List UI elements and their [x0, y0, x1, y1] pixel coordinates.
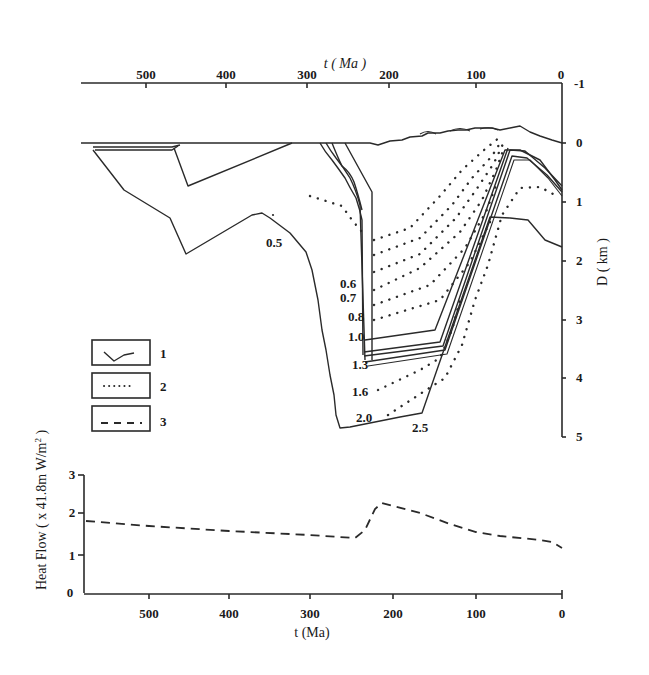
legend-item-3: 3	[92, 406, 167, 431]
x-tick-100: 100	[466, 67, 486, 82]
y-tick-3: 3	[576, 312, 583, 327]
heat-flow-x-tick-labels: 500 400 300 200 100 0	[139, 606, 565, 621]
horizon-trough-2	[364, 148, 508, 352]
figure: t ( Ma ) 500 400 300 200 100 0	[0, 0, 649, 675]
x-tick-300: 300	[297, 67, 317, 82]
legend-item-2: 2	[92, 373, 167, 398]
ro-label-0-8: 0.8	[348, 309, 365, 324]
ro-label-1-0: 1.0	[348, 329, 364, 344]
heat-flow-y-tick-labels: 0 1 2 3	[67, 467, 76, 600]
right-y-axis	[562, 83, 566, 437]
ro-label-0-6: 0.6	[340, 276, 357, 291]
heat-flow-y-axis-title: Heat Flow ( x 41.8m W/m2 )	[33, 430, 50, 591]
top-x-axis	[81, 83, 562, 88]
solid-line-icon	[104, 352, 134, 361]
hf-y-tick-1: 1	[69, 548, 76, 563]
hf-y-tick-2: 2	[69, 505, 76, 520]
horizon-flank-3	[332, 143, 362, 210]
horizon-upper-left-top	[93, 145, 180, 147]
heat-flow-x-axis	[84, 590, 562, 599]
horizon-flank-2	[326, 143, 365, 360]
hf-x-tick-300: 300	[300, 606, 320, 621]
horizon-trough-4	[365, 156, 562, 362]
x-tick-0: 0	[558, 67, 565, 82]
top-x-axis-title: t ( Ma )	[324, 56, 367, 72]
ro-label-1-6: 1.6	[352, 384, 369, 399]
y-tick-5: 5	[576, 429, 583, 444]
y-tick-1: 1	[576, 194, 583, 209]
ro-isolines	[272, 137, 555, 415]
legend-label-3: 3	[160, 414, 167, 429]
x-tick-400: 400	[216, 67, 236, 82]
heat-flow-x-axis-title: t (Ma)	[294, 625, 330, 641]
legend-label-1: 1	[160, 346, 167, 361]
hf-x-tick-200: 200	[383, 606, 403, 621]
ro-label-0-7: 0.7	[340, 290, 357, 305]
y-tick-0: 0	[576, 135, 583, 150]
hf-x-tick-100: 100	[466, 606, 486, 621]
y-tick-4: 4	[576, 370, 583, 385]
ro-label-1-3: 1.3	[352, 357, 369, 372]
y-tick-2: 2	[576, 253, 583, 268]
heat-flow-chart: Heat Flow ( x 41.8m W/m2 ) 0 1 2 3 500 4	[33, 430, 565, 641]
right-y-tick-labels: -1 0 1 2 3 4 5	[574, 76, 585, 444]
ro-label-2-0: 2.0	[356, 410, 372, 425]
hf-x-tick-400: 400	[219, 606, 239, 621]
ro-label-2-5: 2.5	[412, 420, 429, 435]
heat-flow-line	[86, 503, 562, 548]
legend-label-2: 2	[160, 379, 167, 394]
hf-y-tick-0: 0	[67, 585, 74, 600]
horizon-notch	[174, 143, 292, 186]
right-y-axis-title: D ( km )	[595, 238, 611, 286]
x-tick-200: 200	[379, 67, 399, 82]
legend-item-1: 1	[92, 340, 167, 365]
x-tick-500: 500	[136, 67, 156, 82]
hf-y-tick-3: 3	[69, 467, 76, 482]
horizon-trough-1	[365, 150, 562, 340]
hf-x-tick-0: 0	[559, 606, 566, 621]
y-tick-minus1: -1	[574, 76, 585, 91]
hf-x-tick-500: 500	[139, 606, 159, 621]
surface-line	[81, 126, 562, 145]
ro-label-0-5: 0.5	[266, 235, 283, 250]
legend: 1 2 3	[92, 340, 167, 431]
heat-flow-y-axis	[78, 475, 84, 593]
horizon-trough-3	[364, 150, 562, 356]
